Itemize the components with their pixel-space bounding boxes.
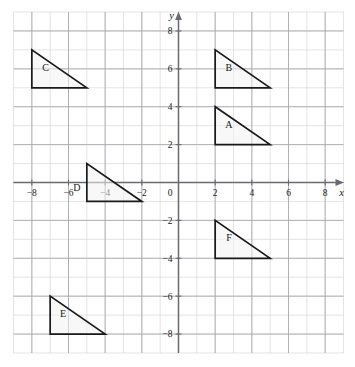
- y-tick-label: −4: [162, 254, 172, 264]
- coordinate-plane-svg: −8−6−4−224688642−2−4−6−80 ABCDEF xy: [0, 0, 355, 367]
- y-axis-label: y: [168, 10, 174, 21]
- triangle-label-b: B: [226, 62, 233, 73]
- triangle-label-d: D: [73, 182, 80, 193]
- x-tick-label: −8: [27, 188, 37, 198]
- x-axis-label: x: [338, 187, 344, 198]
- triangle-label-c: C: [42, 62, 49, 73]
- x-tick-label: 2: [213, 188, 218, 198]
- y-tick-label: −6: [162, 292, 172, 302]
- y-tick-label: 2: [168, 140, 173, 150]
- y-tick-label: −8: [162, 329, 172, 339]
- triangle-label-e: E: [60, 308, 66, 319]
- x-tick-label: −2: [137, 188, 147, 198]
- x-tick-label: 6: [286, 188, 291, 198]
- x-tick-label: 8: [323, 188, 328, 198]
- triangle-label-a: A: [225, 119, 233, 130]
- origin-label: 0: [168, 188, 173, 198]
- y-tick-label: 4: [168, 102, 173, 112]
- coordinate-grid-figure: −8−6−4−224688642−2−4−6−80 ABCDEF xy: [0, 0, 355, 367]
- y-tick-label: 8: [168, 26, 173, 36]
- triangle-label-f: F: [226, 232, 232, 243]
- x-tick-label: 4: [249, 188, 254, 198]
- y-tick-label: −2: [162, 216, 172, 226]
- y-tick-label: 6: [168, 64, 173, 74]
